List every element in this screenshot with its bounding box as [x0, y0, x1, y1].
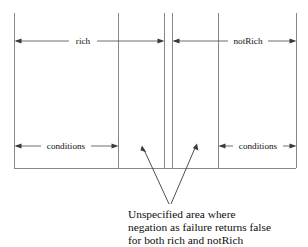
span-rich-left-arrowhead	[15, 39, 22, 44]
span-right-conditions-right-arrowhead	[290, 144, 297, 149]
span-notrich: notRich	[173, 34, 297, 48]
span-right-conditions: conditions	[219, 139, 297, 153]
caption-line-2: negation as failure returns false	[128, 221, 271, 233]
span-left-conditions-right-arrowhead	[112, 144, 119, 149]
span-right-conditions-label: conditions	[239, 141, 278, 151]
caption-line-3: for both rich and notRich	[128, 234, 243, 246]
span-rich-right-arrowhead	[158, 39, 165, 44]
left-pointer-arrowhead	[140, 146, 146, 153]
caption-line-1: Unspecified area where	[128, 208, 236, 220]
span-rich-label: rich	[76, 36, 91, 46]
span-notrich-left-arrowhead	[173, 39, 180, 44]
span-left-conditions-label: conditions	[47, 141, 86, 151]
span-left-conditions-left-arrowhead	[15, 144, 22, 149]
region-diagram-svg: rich notRich conditions conditions	[0, 0, 308, 247]
caption-pointers-group	[140, 144, 198, 204]
span-rich: rich	[15, 34, 165, 48]
span-left-conditions: conditions	[15, 139, 119, 153]
right-pointer-line	[171, 146, 196, 204]
span-right-conditions-left-arrowhead	[219, 144, 226, 149]
left-pointer-line	[143, 148, 169, 204]
unspecified-area-caption: Unspecified area where negation as failu…	[128, 208, 271, 246]
diagram-canvas: rich notRich conditions conditions	[0, 0, 308, 247]
right-pointer-arrowhead	[193, 144, 199, 151]
span-notrich-label: notRich	[233, 36, 262, 46]
span-notrich-right-arrowhead	[290, 39, 297, 44]
